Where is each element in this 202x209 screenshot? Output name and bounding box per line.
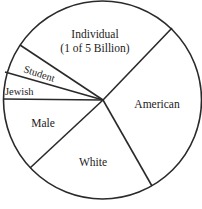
pie-chart: Individual (1 of 5 Billion) Student Jewi… bbox=[0, 0, 202, 209]
slice-label-white: White bbox=[79, 156, 107, 168]
slice-label-american: American bbox=[134, 98, 180, 110]
slice-label-individual: Individual bbox=[71, 28, 118, 40]
slice-sublabel-individual: (1 of 5 Billion) bbox=[60, 42, 129, 55]
slice-label-jewish: Jewish bbox=[5, 86, 34, 97]
divider-male-jewish bbox=[3, 99, 103, 100]
slice-label-male: Male bbox=[31, 117, 55, 129]
